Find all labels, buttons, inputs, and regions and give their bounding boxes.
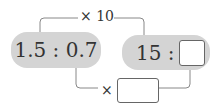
answer-box-ratio[interactable]: [179, 40, 205, 66]
top-multiplier-label: × 10: [80, 8, 114, 24]
bottom-multiplier-label: ×: [101, 82, 113, 98]
left-ratio-pill: 1.5 : 0.7: [11, 32, 101, 68]
left-ratio-text: 1.5 : 0.7: [14, 38, 97, 62]
right-ratio-text: 15 :: [136, 41, 175, 65]
answer-box-multiplier[interactable]: [117, 78, 159, 103]
